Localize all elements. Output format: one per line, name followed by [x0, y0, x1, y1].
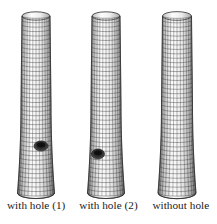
cylinder-2-hole-core [94, 150, 102, 155]
figure-canvas [0, 0, 217, 224]
caption-with-hole-2: with hole (2) [72, 198, 144, 212]
cylinder-mesh-figure: with hole (1) with hole (2) without hole [0, 0, 217, 224]
cylinder-2 [88, 12, 125, 199]
cylinder-1-hole-core [37, 142, 46, 147]
specimen-group [18, 12, 197, 199]
cylinder-3 [158, 12, 196, 199]
caption-with-hole-1: with hole (1) [0, 198, 72, 212]
caption-without-hole: without hole [145, 198, 217, 212]
caption-row: with hole (1) with hole (2) without hole [0, 198, 217, 218]
cylinder-1 [18, 12, 55, 199]
